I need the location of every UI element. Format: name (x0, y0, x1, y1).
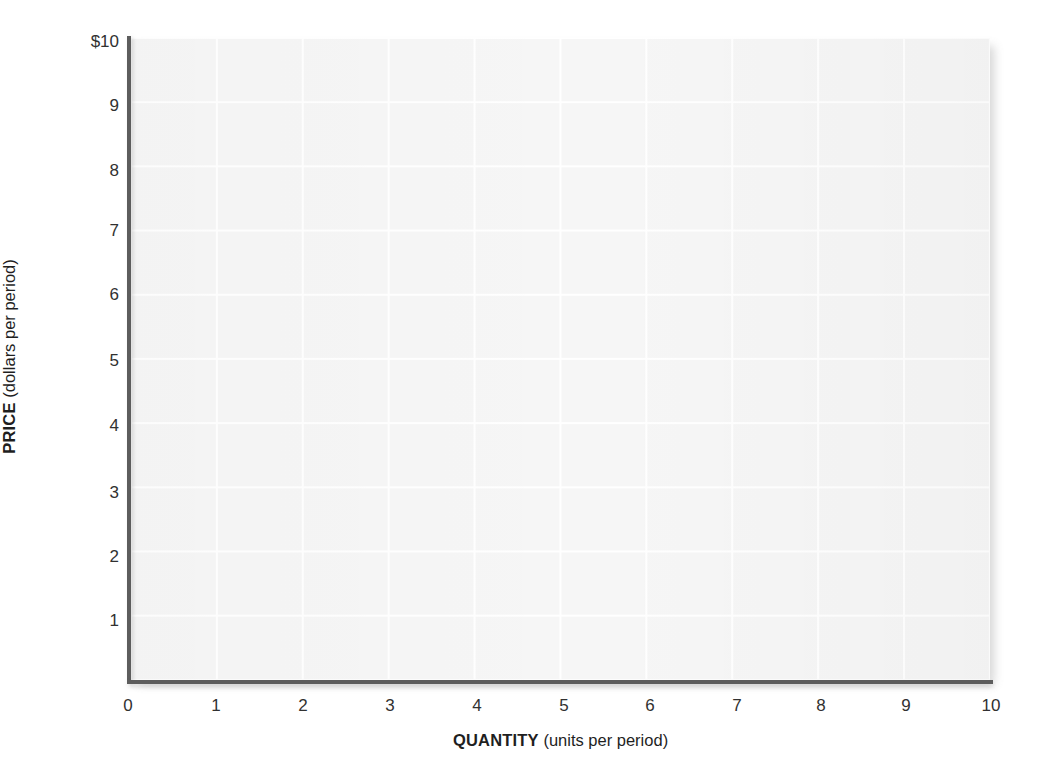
x-tick-label: 2 (273, 697, 333, 714)
x-axis-title-bold: QUANTITY (453, 731, 539, 749)
x-tick-label: 7 (707, 697, 767, 714)
x-tick-label: 8 (791, 697, 851, 714)
x-tick-label: 3 (360, 697, 420, 714)
x-tick-label: 6 (620, 697, 680, 714)
x-tick-label: 9 (876, 697, 936, 714)
x-tick-label: 1 (186, 697, 246, 714)
x-tick-label: 0 (98, 697, 158, 714)
y-axis-title-bold: PRICE (0, 402, 18, 453)
x-tick-label: 5 (534, 697, 594, 714)
x-axis-tick-labels: 0 1 2 3 4 5 6 7 8 9 10 (0, 0, 1052, 775)
x-axis-title-units: (units per period) (539, 731, 668, 749)
y-axis-title-units: (dollars per period) (0, 259, 18, 402)
x-tick-label: 4 (447, 697, 507, 714)
x-tick-label: 10 (961, 697, 1021, 714)
y-axis-title: PRICE (dollars per period) (0, 0, 60, 775)
blank-price-quantity-graph: $10 9 8 7 6 5 4 3 2 1 0 1 2 3 4 5 6 7 8 … (0, 0, 1052, 775)
x-axis-title: QUANTITY (units per period) (131, 731, 990, 750)
